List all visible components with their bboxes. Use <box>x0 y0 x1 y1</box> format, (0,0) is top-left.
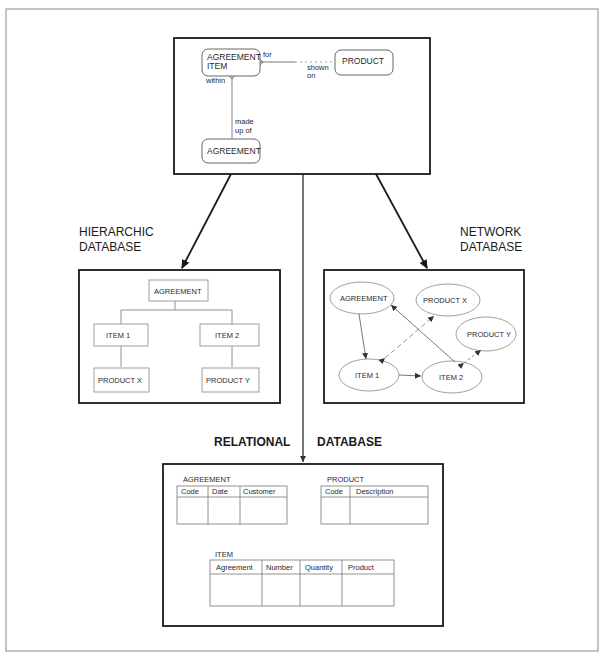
hier-node-product-x: PRODUCT X <box>94 368 149 392</box>
svg-text:ITEM 1: ITEM 1 <box>355 371 379 380</box>
table-product-name: PRODUCT <box>327 475 365 484</box>
svg-text:PRODUCT Y: PRODUCT Y <box>467 330 511 339</box>
network-title-line1: NETWORK <box>460 225 521 239</box>
entity-product-label: PRODUCT <box>342 56 384 66</box>
database-models-diagram: AGREEMENT ITEM PRODUCT AGREEMENT for sho… <box>0 0 605 659</box>
svg-text:PRODUCT X: PRODUCT X <box>423 296 467 305</box>
svg-text:ITEM 2: ITEM 2 <box>215 331 239 340</box>
net-node-item1: ITEM 1 <box>339 359 399 391</box>
er-model-box: AGREEMENT ITEM PRODUCT AGREEMENT for sho… <box>174 38 430 174</box>
hierarchic-title-line1: HIERARCHIC <box>79 225 154 239</box>
net-node-agreement: AGREEMENT <box>330 282 394 314</box>
col-header: Code <box>325 487 343 496</box>
svg-text:ITEM 2: ITEM 2 <box>439 373 463 382</box>
relationship-label-up-of: up of <box>235 126 253 135</box>
entity-agreement-item-line2: ITEM <box>207 61 227 71</box>
relationship-label-within: within <box>205 76 225 85</box>
hierarchic-database-box: AGREEMENT ITEM 1 ITEM 2 PRODUCT X PRODUC… <box>79 270 280 403</box>
table-agreement-name: AGREEMENT <box>183 475 231 484</box>
col-header: Quantity <box>305 563 333 572</box>
hier-node-product-y: PRODUCT Y <box>202 368 259 392</box>
col-header: Code <box>181 487 199 496</box>
svg-text:AGREEMENT: AGREEMENT <box>340 294 388 303</box>
relationship-label-on: on <box>307 71 315 80</box>
entity-product: PRODUCT <box>335 50 393 75</box>
hier-node-item2: ITEM 2 <box>200 324 259 346</box>
svg-text:AGREEMENT: AGREEMENT <box>154 287 202 296</box>
arrow-to-network <box>376 174 427 268</box>
relational-title-right: DATABASE <box>317 435 382 449</box>
col-header: Agreement <box>216 563 254 572</box>
svg-text:ITEM 1: ITEM 1 <box>106 331 130 340</box>
table-item-name: ITEM <box>215 550 233 559</box>
col-header: Product <box>348 563 375 572</box>
relational-database-box: AGREEMENT Code Date Customer PRODUCT Cod… <box>163 464 443 626</box>
entity-agreement-label: AGREEMENT <box>207 146 261 156</box>
entity-agreement: AGREEMENT <box>202 139 261 163</box>
hierarchic-title-line2: DATABASE <box>79 240 141 254</box>
relationship-label-made: made <box>235 117 254 126</box>
relationship-label-for: for <box>263 50 272 59</box>
network-title-line2: DATABASE <box>460 240 522 254</box>
net-node-product-x: PRODUCT X <box>416 284 480 316</box>
net-node-item2: ITEM 2 <box>422 361 482 393</box>
arrow-to-hierarchic <box>182 174 231 268</box>
hier-node-agreement: AGREEMENT <box>149 280 208 301</box>
col-header: Number <box>266 563 293 572</box>
net-node-product-y: PRODUCT Y <box>456 317 516 351</box>
entity-agreement-item: AGREEMENT ITEM <box>202 49 261 76</box>
relational-title-left: RELATIONAL <box>214 435 290 449</box>
col-header: Customer <box>243 487 276 496</box>
network-database-box: AGREEMENT PRODUCT X PRODUCT Y ITEM 1 ITE… <box>324 270 524 403</box>
col-header: Description <box>356 487 394 496</box>
col-header: Date <box>212 487 228 496</box>
svg-text:PRODUCT X: PRODUCT X <box>98 376 142 385</box>
svg-text:PRODUCT Y: PRODUCT Y <box>206 376 250 385</box>
hier-node-item1: ITEM 1 <box>94 324 148 346</box>
